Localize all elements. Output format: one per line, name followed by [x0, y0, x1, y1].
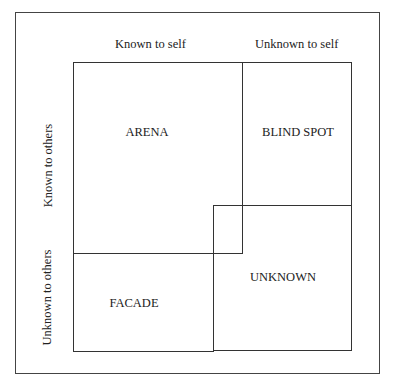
row-header-unknown-to-others: Unknown to others	[40, 243, 55, 353]
unknown-label: UNKNOWN	[250, 270, 316, 285]
column-header-known-to-self: Known to self	[115, 37, 186, 52]
facade-label: FACADE	[109, 296, 158, 311]
row-header-known-to-others: Known to others	[41, 116, 56, 216]
blind-spot-label: BLIND SPOT	[262, 125, 334, 140]
column-header-unknown-to-self: Unknown to self	[255, 37, 338, 52]
arena-label: ARENA	[125, 125, 168, 140]
